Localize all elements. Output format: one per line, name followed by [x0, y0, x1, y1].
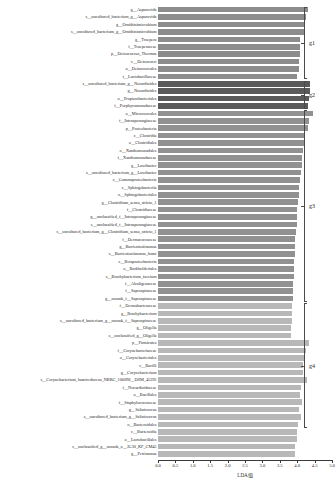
- axis-tick: [175, 460, 176, 463]
- bar-g4: [158, 444, 295, 450]
- axis-tick-label: 3.5: [277, 463, 283, 468]
- bar-row: c__Clostridia: [0, 132, 332, 139]
- bar-g3: [158, 288, 293, 294]
- axis-tick: [210, 460, 211, 463]
- bar-row: o__Bacteroidales: [0, 421, 332, 428]
- bar-g1: [158, 22, 305, 28]
- bar-row: g__Oligella: [0, 324, 332, 331]
- bar-row: g__Asparovida: [0, 6, 332, 13]
- bar-row: f__Corynebacteriaceae: [0, 347, 332, 354]
- bar-g1: [158, 14, 306, 20]
- bar-label: f__Porphyromonadaceae: [0, 102, 158, 109]
- bar-row: f__Clostridiaceae: [0, 206, 332, 213]
- group-label: g4: [309, 363, 315, 369]
- bar-label: s__unclassified_f__Intrasporangiaceae: [0, 221, 158, 228]
- bar-g3: [158, 192, 299, 198]
- bracket-cap-bottom: [304, 301, 307, 302]
- bar-row: c__Bacteroidia: [0, 428, 332, 435]
- bar-row: f__Nocardioidaceae: [0, 384, 332, 391]
- bar-g3: [158, 185, 299, 191]
- bar-g3: [158, 259, 294, 265]
- bar-g3: [158, 170, 301, 176]
- bar-label: f__Alcaligenaceae: [0, 280, 158, 287]
- bar-label: f__Xanthomonadaceae: [0, 154, 158, 161]
- bar-label: c__Gammaproteobacteria: [0, 176, 158, 183]
- bar-label: s__uncultured_bacterium_g__Asparovida: [0, 13, 158, 20]
- bar-label: f__Nocardioidaceae: [0, 384, 158, 391]
- bracket-cap-bottom: [304, 78, 307, 79]
- bar-row: s__uncultured_bacterium_g__norank_f__Sap…: [0, 317, 332, 324]
- bar-label: s__uncultured_bacterium_g__Clostridium_s…: [0, 228, 158, 235]
- bar-row: o__Propionibacteriales: [0, 95, 332, 102]
- bar-row: f__Saprospiraceae: [0, 287, 332, 294]
- bar-row: f__Porphyromonadaceae: [0, 102, 332, 109]
- bar-g3: [158, 118, 309, 124]
- bar-g4: [158, 414, 301, 420]
- bar-row: s__Barrientosiimonas_humi: [0, 250, 332, 257]
- bar-label: o__Propionibacteriales: [0, 95, 158, 102]
- bar-label: g__Ornithinimicrobium: [0, 21, 158, 28]
- bar-g4: [158, 318, 292, 324]
- axis-tick-label: 5.0: [329, 463, 335, 468]
- bar-g1: [158, 29, 304, 35]
- bar-row: f__Lactobacillaceae: [0, 73, 332, 80]
- axis-tick: [332, 460, 333, 463]
- bar-label: g__Petrimonas: [0, 450, 158, 457]
- bar-label: o__Lactobacillales: [0, 436, 158, 443]
- bar-track: [158, 443, 332, 450]
- bar-row: s__Brachybacterium_faecium: [0, 273, 332, 280]
- bar-label: c__Betaproteobacteria: [0, 258, 158, 265]
- bar-row: c__Deinococci: [0, 58, 332, 65]
- bar-label: g__Barrientosiimonas: [0, 243, 158, 250]
- bar-label: o__Corynebacteriales: [0, 354, 158, 361]
- bar-g4: [158, 303, 292, 309]
- bar-row: g__Salinicoccus: [0, 406, 332, 413]
- bar-g4: [158, 355, 305, 361]
- bar-label: f__Dermacoccaceae: [0, 236, 158, 243]
- bar-row: g__Corynebacterium: [0, 369, 332, 376]
- bar-row: c__Bacilli: [0, 362, 332, 369]
- axis-tick-label: 4.5: [312, 463, 318, 468]
- bar-g1: [158, 59, 299, 65]
- bracket-nib: [301, 95, 304, 96]
- bar-row: g__Petrimonas: [0, 450, 332, 457]
- bar-g4: [158, 325, 291, 331]
- bar-row: p__Deinococcus_Thermus: [0, 50, 332, 57]
- bar-row: s__uncultured_bacterium_g__Salinicoccus: [0, 413, 332, 420]
- bar-row: o__Clostridiales: [0, 139, 332, 146]
- bar-g4: [158, 436, 297, 442]
- bar-label: s__uncultured_bacterium_g__Lawibacter: [0, 169, 158, 176]
- bar-track: [158, 450, 332, 457]
- bar-label: c__Deinococci: [0, 58, 158, 65]
- group-label: g1: [309, 40, 315, 46]
- axis-tick: [245, 460, 246, 463]
- bar-label: o__Micrococcales: [0, 110, 158, 117]
- bar-rows: g__Asparovidas__uncultured_bacterium_g__…: [0, 6, 332, 458]
- axis-tick-label: 1.5: [207, 463, 213, 468]
- bar-row: s__uncultured_bacterium_g__Clostridium_s…: [0, 228, 332, 235]
- bar-row: c__Sphingobacteriia: [0, 184, 332, 191]
- bar-row: s__Corynebacterium_humireducens_NBRC_106…: [0, 376, 332, 383]
- bar-label: o__Burkholderiales: [0, 265, 158, 272]
- bar-g3: [158, 148, 303, 154]
- bar-g3: [158, 207, 297, 213]
- bar-label: g__Salinicoccus: [0, 406, 158, 413]
- bar-g4: [158, 348, 306, 354]
- bar-g3: [158, 266, 294, 272]
- bar-label: o__Clostridiales: [0, 139, 158, 146]
- bar-row: g__Barrientosiimonas: [0, 243, 332, 250]
- bar-g4: [158, 422, 298, 428]
- bar-row: f__Dermacoccaceae: [0, 236, 332, 243]
- axis-tick-label: 4.0: [294, 463, 300, 468]
- bar-label: c__Bacteroidia: [0, 428, 158, 435]
- bar-row: s__uncultured_bacterium_g__Asparovida: [0, 13, 332, 20]
- bar-g3: [158, 214, 297, 220]
- bar-g4: [158, 407, 299, 413]
- bar-row: f__Dermabacteraceae: [0, 302, 332, 309]
- bar-row: o__Sphingobacteriales: [0, 191, 332, 198]
- bracket-cap-top: [304, 81, 307, 82]
- bar-label: f__Clostridiaceae: [0, 206, 158, 213]
- bar-label: f__Intrasporangiaceae: [0, 117, 158, 124]
- bar-row: o__Xanthomonadales: [0, 147, 332, 154]
- bar-g3: [158, 125, 308, 131]
